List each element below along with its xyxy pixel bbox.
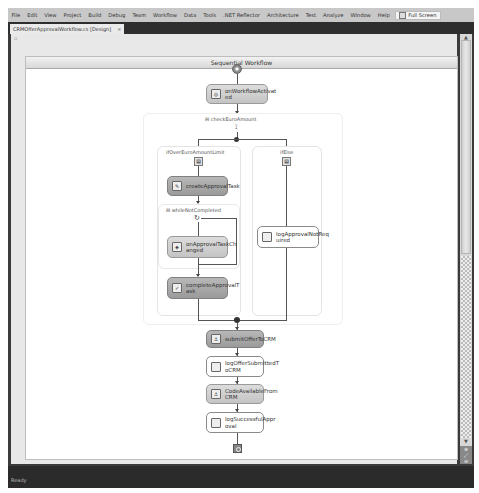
branch-label: ifOverEuroAmountLimit bbox=[166, 149, 225, 155]
connector bbox=[198, 139, 286, 140]
branch-condition-icon: ▤ bbox=[282, 157, 291, 166]
create-task-icon: ✎ bbox=[172, 181, 182, 191]
menu-edit[interactable]: Edit bbox=[24, 12, 41, 18]
menu-test[interactable]: Test bbox=[302, 12, 319, 18]
workflow-start-icon bbox=[232, 64, 242, 74]
document-tab-bar: CRMOfferApprovalWorkflow.cs [Design] × ▾ bbox=[8, 22, 474, 34]
connector bbox=[198, 222, 199, 236]
connector bbox=[237, 74, 238, 84]
activity-log-approval-not-required[interactable]: logApprovalNotReq uired bbox=[257, 226, 319, 248]
menu-debug[interactable]: Debug bbox=[105, 12, 129, 18]
full-screen-label: Full Screen bbox=[408, 12, 436, 18]
connector bbox=[286, 248, 287, 320]
menu-net-reflector[interactable]: .NET Reflector bbox=[220, 12, 264, 18]
status-bar: Ready bbox=[8, 466, 474, 488]
activity-on-workflow-activated[interactable]: ◎ onWorkflowActivat ed bbox=[206, 84, 268, 104]
scrollbar-thumb[interactable] bbox=[461, 40, 471, 254]
event-icon: ◎ bbox=[211, 89, 221, 99]
connector bbox=[198, 166, 199, 176]
menu-analyze[interactable]: Analyze bbox=[319, 12, 346, 18]
close-icon[interactable]: × bbox=[117, 26, 121, 32]
full-screen-button[interactable]: Full Screen bbox=[395, 11, 440, 20]
connector bbox=[198, 320, 287, 321]
status-text: Ready bbox=[11, 477, 27, 483]
code-activity-icon: ⚓ bbox=[211, 334, 221, 344]
menu-bar: File Edit View Project Build Debug Team … bbox=[8, 8, 474, 22]
activity-label: logOfferSubmittedT oCRM bbox=[225, 360, 279, 373]
menu-window[interactable]: Window bbox=[347, 12, 374, 18]
menu-tools[interactable]: Tools bbox=[200, 12, 220, 18]
activity-log-successful-approval[interactable]: logSuccessfulAppr oval bbox=[206, 412, 264, 433]
branch-label: ifElse bbox=[280, 149, 293, 155]
zoom-controls: ⊕ ⤢ ⊖ bbox=[460, 446, 472, 464]
menu-data[interactable]: Data bbox=[180, 12, 199, 18]
connector bbox=[286, 166, 287, 226]
activity-label: CodeAvailableFrom CRM bbox=[225, 388, 278, 401]
activity-label: logApprovalNotReq uired bbox=[276, 231, 329, 244]
while-label: ⊟ whileNotCompleted bbox=[166, 207, 221, 213]
connector bbox=[198, 264, 237, 265]
activity-create-approval-task[interactable]: ✎ createApprovalTask bbox=[167, 176, 228, 196]
activity-label: onWorkflowActivat ed bbox=[225, 88, 276, 101]
connector bbox=[237, 433, 238, 444]
resize-handle-icon[interactable]: ▫ bbox=[14, 35, 17, 41]
menu-file[interactable]: File bbox=[8, 12, 24, 18]
activity-label: onApprovalTaskCh anged bbox=[186, 241, 236, 254]
ifelse-icon: ⟟ bbox=[232, 123, 241, 132]
scrollbar-track[interactable] bbox=[461, 256, 471, 438]
log-icon bbox=[211, 418, 221, 428]
menu-architecture[interactable]: Architecture bbox=[263, 12, 302, 18]
connector bbox=[198, 299, 199, 320]
code-activity-icon: ⚓ bbox=[211, 389, 221, 399]
complete-task-icon: ✓ bbox=[172, 283, 182, 293]
tab-crm-offer-approval-workflow[interactable]: CRMOfferApprovalWorkflow.cs [Design] × bbox=[10, 24, 124, 34]
loop-icon: ↻ bbox=[194, 214, 200, 222]
activity-label: logSuccessfulAppr oval bbox=[225, 416, 275, 429]
log-icon bbox=[262, 232, 272, 242]
event-changed-icon: ◈ bbox=[172, 242, 182, 252]
branch-condition-icon: ▤ bbox=[194, 157, 203, 166]
tab-label: CRMOfferApprovalWorkflow.cs [Design] bbox=[13, 26, 111, 32]
menu-workflow[interactable]: Workflow bbox=[150, 12, 181, 18]
menu-build[interactable]: Build bbox=[85, 12, 105, 18]
activity-code-available-from-crm[interactable]: ⚓ CodeAvailableFrom CRM bbox=[206, 384, 264, 404]
connector bbox=[201, 218, 237, 219]
activity-complete-approval-task[interactable]: ✓ completeApprovalT ask bbox=[167, 277, 228, 299]
workflow-end-icon bbox=[233, 444, 242, 453]
log-icon bbox=[211, 362, 221, 372]
activity-label: completeApprovalT ask bbox=[186, 282, 239, 295]
vertical-scrollbar[interactable]: ▲ ▼ bbox=[460, 34, 472, 464]
scroll-down-button[interactable]: ▼ bbox=[461, 438, 471, 444]
activity-label: submitOfferToCRM bbox=[225, 336, 276, 342]
menu-team[interactable]: Team bbox=[129, 12, 150, 18]
full-screen-icon bbox=[399, 12, 406, 19]
activity-on-approval-task-changed[interactable]: ◈ onApprovalTaskCh anged bbox=[167, 236, 228, 258]
menu-project[interactable]: Project bbox=[60, 12, 85, 18]
zoom-out-button[interactable]: ⊖ bbox=[460, 458, 472, 464]
activity-label: createApprovalTask bbox=[186, 183, 240, 189]
activity-submit-offer-to-crm[interactable]: ⚓ submitOfferToCRM bbox=[206, 330, 264, 348]
menu-view[interactable]: View bbox=[41, 12, 60, 18]
menu-help[interactable]: Help bbox=[374, 12, 393, 18]
check-euro-amount-label: ⊟ checkEuroAmount bbox=[205, 116, 256, 122]
activity-log-offer-submitted[interactable]: logOfferSubmittedT oCRM bbox=[206, 356, 264, 377]
